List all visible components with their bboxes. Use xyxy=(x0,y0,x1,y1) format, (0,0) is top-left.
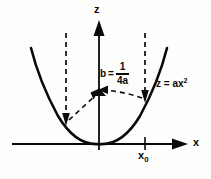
x-axis-label: x xyxy=(193,137,199,148)
figure-canvas xyxy=(0,0,211,179)
x-axis-arrowhead-icon xyxy=(172,139,188,150)
curve-equation-rhs: ax xyxy=(172,78,183,89)
curve-equation-exponent: 2 xyxy=(184,77,188,84)
focus-numerator: 1 xyxy=(119,62,127,73)
focus-fraction: 1 4a xyxy=(116,62,129,86)
focus-equals: = xyxy=(108,69,114,79)
reflected-ray-left xyxy=(69,95,96,120)
curve-equation-equals: = xyxy=(164,78,170,89)
z-axis-arrowhead-icon xyxy=(94,20,105,36)
x0-subscript: 0 xyxy=(144,155,148,164)
focus-variable: b xyxy=(100,69,106,79)
curve-equation-lhs: z xyxy=(156,78,161,89)
focus-distance-label: b = 1 4a xyxy=(100,62,129,86)
x0-tick-label: x0 xyxy=(138,150,149,164)
parabola-focus-figure: z x x0 z = ax2 b = 1 4a xyxy=(0,0,211,179)
z-axis-label: z xyxy=(94,4,100,15)
focus-denominator: 4a xyxy=(116,75,129,86)
curve-equation-label: z = ax2 xyxy=(156,77,187,89)
reflected-ray-right xyxy=(105,90,142,98)
